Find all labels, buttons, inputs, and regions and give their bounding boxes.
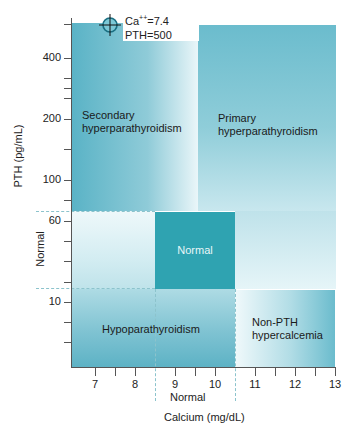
ytick-label-60: 60	[31, 214, 61, 226]
xtick-7	[95, 368, 96, 376]
ytick-250	[64, 88, 72, 89]
x-axis-line	[71, 367, 336, 368]
xtick-9	[175, 368, 176, 376]
xtick-11	[255, 368, 256, 376]
xtick-10	[215, 368, 216, 376]
label-hypoparathyroidism: Hypoparathyroidism	[102, 323, 200, 336]
label-primary: Primary hyperparathyroidism	[218, 112, 318, 138]
ytick-30	[64, 261, 72, 262]
ytick-10	[64, 302, 72, 303]
label-non-pth: Non-PTH hypercalcemia	[252, 316, 323, 342]
ytick-2	[64, 342, 72, 343]
normal-ca-upper-line	[235, 289, 236, 401]
ytick-150	[64, 149, 72, 150]
y-normal-label: Normal	[34, 229, 46, 269]
annotation-box: Ca++=7.4 PTH=500	[123, 11, 199, 41]
annotation-ca-prefix: Ca	[125, 15, 139, 27]
ytick-60	[64, 221, 72, 222]
crosshair-marker-icon	[99, 14, 121, 36]
ytick-label-200: 200	[31, 112, 61, 124]
xtick-13	[335, 368, 336, 376]
xtick-12-5	[315, 368, 316, 376]
normal-pth-upper-line	[36, 211, 155, 212]
label-secondary-line2: hyperparathyroidism	[82, 122, 182, 135]
ytick-80	[64, 200, 72, 201]
xtick-8	[135, 368, 136, 376]
xtick-label-9: 9	[165, 378, 185, 390]
xtick-11-5	[275, 368, 276, 376]
ytick-220	[64, 98, 72, 99]
x-axis-title: Calcium (mg/dL)	[164, 411, 245, 423]
xtick-12	[295, 368, 296, 376]
label-nonpth-line2: hypercalcemia	[252, 329, 323, 342]
region-low-normal-band	[72, 211, 155, 289]
label-secondary-line1: Secondary	[82, 109, 182, 122]
ytick-5	[64, 322, 72, 323]
ytick-200	[64, 119, 72, 120]
ytick-20	[64, 282, 72, 283]
ytick-100	[64, 180, 72, 181]
xtick-label-10: 10	[205, 378, 225, 390]
y-axis-title: PTH (pg/mL)	[12, 116, 24, 196]
region-high-normal-band	[235, 211, 336, 289]
label-nonpth-line1: Non-PTH	[252, 316, 323, 329]
xtick-7-5	[115, 368, 116, 376]
ytick-40	[64, 241, 72, 242]
label-primary-line1: Primary	[218, 112, 318, 125]
x-normal-label: Normal	[170, 391, 205, 403]
xtick-label-11: 11	[245, 378, 265, 390]
xtick-label-8: 8	[125, 378, 145, 390]
normal-ca-lower-line	[155, 289, 156, 401]
annotation-calcium: Ca++=7.4	[123, 11, 199, 28]
xtick-label-13: 13	[325, 378, 345, 390]
xtick-label-12: 12	[285, 378, 305, 390]
ytick-300	[64, 78, 72, 79]
normal-pth-lower-line	[36, 288, 155, 289]
ytick-label-400: 400	[31, 51, 61, 63]
ytick-500	[64, 24, 72, 25]
ytick-label-100: 100	[31, 173, 61, 185]
annotation-pth: PTH=500	[123, 28, 199, 42]
y-axis-line	[71, 18, 72, 368]
annotation-ca-value: =7.4	[147, 15, 169, 27]
label-primary-line2: hyperparathyroidism	[218, 125, 318, 138]
xtick-label-7: 7	[85, 378, 105, 390]
xtick-9-5	[195, 368, 196, 376]
label-secondary: Secondary hyperparathyroidism	[82, 109, 182, 135]
ytick-400	[64, 58, 72, 59]
label-normal-box: Normal	[155, 244, 235, 257]
ytick-label-10: 10	[31, 295, 61, 307]
